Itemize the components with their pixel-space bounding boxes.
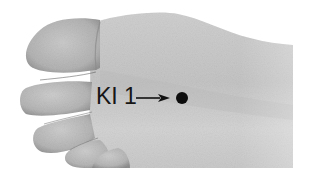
point-marker-dot-icon — [176, 92, 188, 104]
second-toe — [20, 81, 92, 115]
toe-gap-shadow — [40, 72, 96, 80]
foot-photo — [0, 0, 310, 178]
edge-fade — [240, 40, 293, 168]
big-toe — [26, 18, 100, 72]
point-label: KI 1 — [96, 85, 137, 108]
